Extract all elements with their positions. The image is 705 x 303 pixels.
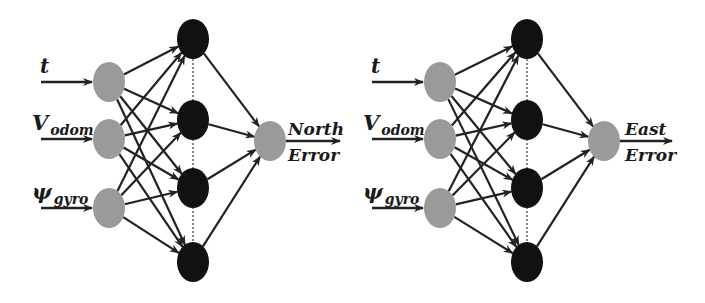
input-hidden-edge bbox=[124, 47, 178, 75]
hidden-node bbox=[511, 168, 543, 208]
output-label-line1: East bbox=[624, 119, 667, 139]
input-label-main: t bbox=[40, 54, 50, 78]
input-hidden-edge bbox=[121, 53, 182, 125]
input-node bbox=[93, 119, 125, 159]
input-node bbox=[93, 62, 125, 102]
input-label: ψgyro bbox=[363, 179, 419, 207]
input-label-main: V bbox=[363, 110, 382, 135]
output-node bbox=[254, 121, 286, 161]
hidden-output-edge bbox=[203, 157, 260, 247]
input-hidden-edge bbox=[456, 192, 512, 205]
hidden-node bbox=[511, 242, 543, 282]
input-label-subscript: odom bbox=[381, 122, 424, 138]
input-label-subscript: gyro bbox=[54, 191, 89, 207]
input-node bbox=[424, 62, 456, 102]
hidden-node bbox=[177, 168, 209, 208]
input-label: ψgyro bbox=[32, 179, 88, 207]
input-hidden-edge bbox=[454, 217, 512, 253]
input-label-subscript: gyro bbox=[385, 191, 420, 207]
input-label-main: V bbox=[32, 110, 51, 135]
input-node bbox=[93, 188, 125, 228]
hidden-output-edge bbox=[543, 124, 589, 136]
hidden-output-edge bbox=[204, 54, 259, 127]
input-hidden-edge bbox=[455, 46, 512, 74]
hidden-node bbox=[511, 100, 543, 140]
input-hidden-edge bbox=[123, 217, 179, 253]
output-label-line2: Error bbox=[624, 145, 677, 165]
input-label: t bbox=[371, 54, 381, 78]
hidden-output-edge bbox=[209, 124, 255, 136]
hidden-node bbox=[511, 19, 543, 59]
neural-network-diagrams: tVodomψgyroNorthError tVodomψgyroEastErr… bbox=[0, 0, 705, 303]
hidden-output-edge bbox=[538, 54, 593, 127]
input-node bbox=[424, 119, 456, 159]
input-node bbox=[424, 188, 456, 228]
connections bbox=[448, 39, 594, 262]
hidden-node bbox=[177, 242, 209, 282]
hidden-node bbox=[177, 19, 209, 59]
output-label-line1: North bbox=[287, 119, 344, 139]
input-hidden-edge bbox=[452, 53, 515, 126]
output-label-line2: Error bbox=[287, 145, 340, 165]
input-label-main: ψ bbox=[363, 179, 384, 204]
output-node bbox=[588, 121, 620, 161]
input-label: Vodom bbox=[32, 110, 94, 138]
hidden-node bbox=[177, 100, 209, 140]
input-label-main: t bbox=[371, 54, 381, 78]
connections bbox=[117, 39, 260, 262]
north-error-network: tVodomψgyroNorthError bbox=[32, 19, 344, 282]
input-label-main: ψ bbox=[32, 179, 53, 204]
east-error-network: tVodomψgyroEastError bbox=[363, 19, 677, 282]
input-label: t bbox=[40, 54, 50, 78]
input-label-subscript: odom bbox=[50, 122, 93, 138]
input-label: Vodom bbox=[363, 110, 425, 138]
hidden-output-edge bbox=[537, 157, 594, 247]
